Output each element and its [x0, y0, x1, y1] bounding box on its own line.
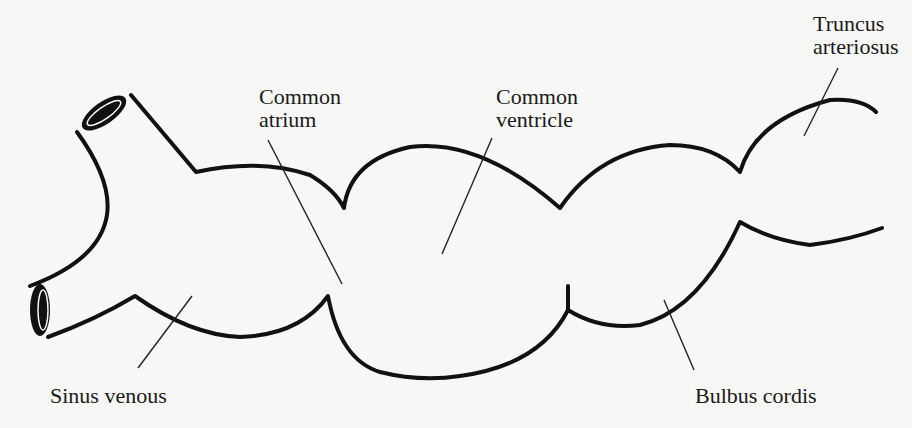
- lower-vessel-opening: [30, 284, 50, 336]
- leader-common-atrium: [268, 140, 342, 284]
- leader-common-ventricle: [442, 138, 492, 254]
- label-line: atrium: [259, 108, 341, 131]
- label-line: Truncus: [813, 12, 899, 35]
- leader-bulbus-cordis: [664, 300, 694, 370]
- label-common-ventricle: Common ventricle: [496, 85, 578, 131]
- label-line: Common: [496, 85, 578, 108]
- label-truncus-arteriosus: Truncus arteriosus: [813, 12, 899, 58]
- label-line: ventricle: [496, 108, 578, 131]
- leader-sinus-venous: [138, 296, 192, 368]
- label-line: arteriosus: [813, 35, 899, 58]
- upper-vessel-opening: [76, 89, 131, 137]
- diagram-drawing: [0, 0, 912, 428]
- label-line: Common: [259, 85, 341, 108]
- label-common-atrium: Common atrium: [259, 85, 341, 131]
- sinus-left-contour: [30, 132, 108, 286]
- label-bulbus-cordis: Bulbus cordis: [695, 384, 817, 407]
- lower-contour: [48, 222, 882, 378]
- leader-truncus-arteriosus: [804, 68, 838, 136]
- label-sinus-venous: Sinus venous: [50, 384, 167, 407]
- heart-tube-diagram: Truncus arteriosus Common atrium Common …: [0, 0, 912, 428]
